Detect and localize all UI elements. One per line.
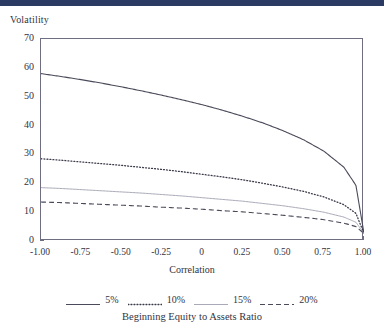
y-tick-label: 10 xyxy=(4,206,34,216)
legend-label: 10% xyxy=(167,294,185,305)
legend-swatch-icon xyxy=(66,295,100,304)
legend-label: 15% xyxy=(233,294,251,305)
volatility-correlation-chart: Volatility 010203040506070 -1.00-0.75-0.… xyxy=(0,6,384,331)
x-tick-label: -0.50 xyxy=(98,247,144,257)
legend-item-15pct[interactable]: 15% xyxy=(194,294,251,305)
legend: 5%10%15%20% xyxy=(0,294,384,305)
y-tick-label: 70 xyxy=(4,33,34,43)
y-tick-label: 20 xyxy=(4,177,34,187)
legend-item-10pct[interactable]: 10% xyxy=(128,294,185,305)
legend-item-20pct[interactable]: 20% xyxy=(260,294,317,305)
series-line-10pct xyxy=(41,159,364,234)
curve-layer xyxy=(41,39,364,241)
y-tick-label: 50 xyxy=(4,91,34,101)
x-tick-label: 0.75 xyxy=(300,247,346,257)
legend-item-5pct[interactable]: 5% xyxy=(66,294,118,305)
legend-swatch-icon xyxy=(194,295,228,304)
x-tick-label: -0.75 xyxy=(57,247,103,257)
y-tick-label: 30 xyxy=(4,148,34,158)
y-tick-label: 60 xyxy=(4,62,34,72)
legend-swatch-icon xyxy=(260,295,294,304)
legend-title: Beginning Equity to Assets Ratio xyxy=(0,311,384,322)
x-tick-label: 1.00 xyxy=(340,247,384,257)
y-axis-title: Volatility xyxy=(10,14,49,25)
x-tick-label: -0.25 xyxy=(138,247,184,257)
legend-label: 20% xyxy=(299,294,317,305)
series-line-20pct xyxy=(41,202,364,233)
x-tick-label: 0.25 xyxy=(219,247,265,257)
legend-swatch-icon xyxy=(128,295,162,304)
y-tick-label: 0 xyxy=(4,235,34,245)
x-tick-label: -1.00 xyxy=(17,247,63,257)
x-axis-title: Correlation xyxy=(0,264,384,275)
x-tick-label: 0 xyxy=(179,247,225,257)
plot-area xyxy=(40,38,363,240)
legend-label: 5% xyxy=(105,294,118,305)
y-tick-label: 40 xyxy=(4,120,34,130)
x-tick-label: 0.50 xyxy=(259,247,305,257)
